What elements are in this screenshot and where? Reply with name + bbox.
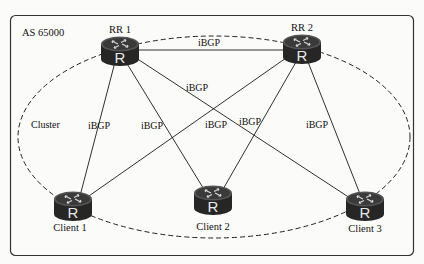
router-glyph: R: [297, 47, 308, 64]
link-label-rr2-client3: iBGP: [306, 119, 329, 130]
router-glyph: R: [208, 198, 219, 215]
link-label-rr1-client1: iBGP: [88, 120, 111, 131]
router-glyph: R: [68, 204, 79, 221]
router-client2[interactable]: R: [194, 186, 232, 216]
network-diagram: R R R R R RR 1 RR 2 Client 1 Client 2 Cl…: [0, 0, 424, 264]
router-rr1[interactable]: R: [101, 37, 139, 67]
label-rr2: RR 2: [291, 22, 313, 33]
router-client3[interactable]: R: [346, 192, 384, 222]
link-label-rr1-rr2: iBGP: [198, 37, 221, 48]
link-label-rr1-client2: iBGP: [141, 120, 164, 131]
link-label-rr2-client1: iBGP: [205, 119, 228, 130]
link-label-rr1-client3: iBGP: [186, 82, 209, 93]
as-label: AS 65000: [22, 27, 64, 38]
link-rr2-client1: [86, 58, 286, 198]
label-client1: Client 1: [53, 222, 87, 233]
cluster-label: Cluster: [31, 119, 61, 130]
label-client2: Client 2: [196, 221, 230, 232]
label-rr1: RR 1: [109, 24, 131, 35]
router-glyph: R: [115, 49, 126, 66]
label-client3: Client 3: [348, 223, 382, 234]
router-rr2[interactable]: R: [283, 35, 321, 65]
link-label-rr2-client2: iBGP: [239, 116, 262, 127]
router-glyph: R: [360, 204, 371, 221]
router-client1[interactable]: R: [54, 192, 92, 222]
